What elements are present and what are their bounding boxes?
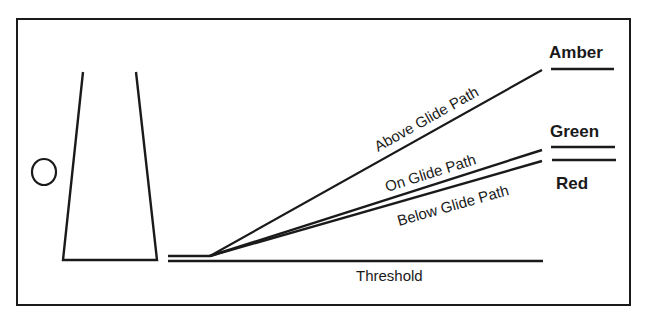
status-green-label: Green (550, 122, 599, 141)
pylon-shape (63, 72, 157, 260)
above-glide-path-label: Above Glide Path (371, 83, 481, 155)
indicator-circle-icon (32, 159, 56, 185)
threshold-label: Threshold (356, 267, 423, 284)
status-amber-label: Amber (549, 43, 603, 62)
on-glide-path-label: On Glide Path (383, 150, 478, 195)
below-glide-path-label: Below Glide Path (395, 181, 510, 229)
status-red-label: Red (556, 174, 588, 193)
below-glide-path-line (210, 161, 542, 256)
on-glide-path-line (210, 150, 542, 256)
glide-path-diagram: Above Glide Path On Glide Path Below Gli… (0, 0, 648, 318)
above-glide-path-line (210, 70, 542, 256)
